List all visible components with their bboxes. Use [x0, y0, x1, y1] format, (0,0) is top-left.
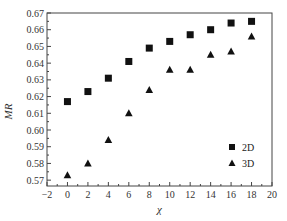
data-point-2d [84, 88, 91, 95]
y-tick-label: 0.58 [27, 158, 45, 169]
y-tick-label: 0.67 [27, 8, 45, 19]
data-point-2d [125, 58, 132, 65]
scatter-chart: −2024681012141618200.570.580.590.600.610… [0, 0, 287, 221]
data-point-2d [248, 18, 255, 25]
data-point-3d [145, 86, 153, 93]
data-point-3d [84, 159, 92, 166]
data-point-3d [125, 109, 133, 116]
x-tick-label: 14 [206, 189, 216, 200]
data-point-2d [64, 98, 71, 105]
data-point-3d [227, 47, 235, 54]
data-point-2d [166, 38, 173, 45]
y-tick-label: 0.57 [27, 175, 45, 186]
x-tick-label: 10 [165, 189, 175, 200]
x-tick-label: 2 [85, 189, 90, 200]
y-tick-label: 0.64 [27, 58, 45, 69]
legend-label-3d: 3D [242, 158, 254, 169]
x-tick-label: −2 [42, 189, 53, 200]
data-point-3d [105, 136, 113, 143]
data-point-2d [105, 75, 112, 82]
legend-marker-triangle-icon [229, 160, 236, 167]
x-tick-label: 4 [106, 189, 111, 200]
x-tick-label: 18 [247, 189, 257, 200]
y-tick-label: 0.61 [27, 108, 45, 119]
x-axis-label: χ [156, 203, 163, 215]
y-tick-label: 0.66 [27, 24, 45, 35]
x-tick-label: 16 [226, 189, 236, 200]
x-tick-label: 8 [147, 189, 152, 200]
y-axis-label: MR [2, 103, 14, 120]
legend-label-2d: 2D [242, 142, 254, 153]
y-tick-label: 0.62 [27, 91, 45, 102]
data-point-3d [64, 171, 72, 178]
x-tick-label: 0 [65, 189, 70, 200]
y-tick-label: 0.59 [27, 141, 45, 152]
data-point-3d [207, 51, 215, 58]
legend-marker-square-icon [229, 144, 235, 150]
data-point-2d [207, 26, 214, 33]
y-tick-label: 0.65 [27, 41, 45, 52]
y-tick-label: 0.63 [27, 74, 45, 85]
data-point-3d [248, 32, 256, 39]
data-point-3d [166, 66, 174, 73]
data-point-2d [228, 20, 235, 27]
data-point-2d [146, 45, 153, 52]
x-tick-label: 20 [267, 189, 277, 200]
data-point-3d [186, 66, 194, 73]
y-tick-label: 0.60 [27, 125, 45, 136]
data-point-2d [187, 31, 194, 38]
x-tick-label: 6 [126, 189, 131, 200]
x-tick-label: 12 [185, 189, 195, 200]
plot-frame [47, 13, 272, 186]
